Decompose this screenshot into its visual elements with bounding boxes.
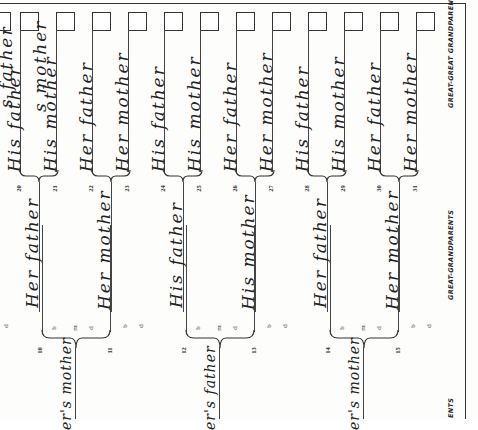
birth-marker: b bbox=[121, 324, 129, 328]
death-marker: d bbox=[137, 324, 145, 328]
chart-border-right bbox=[465, 3, 466, 419]
record-checkbox[interactable] bbox=[128, 12, 147, 31]
ancestor-name[interactable]: Her mother bbox=[382, 189, 402, 310]
ancestor-name[interactable]: er's father bbox=[202, 345, 218, 430]
ancestor-number: 31 bbox=[411, 185, 418, 192]
name-line bbox=[398, 225, 399, 332]
name-line bbox=[254, 225, 255, 332]
ancestor-name[interactable]: Her father bbox=[220, 61, 240, 172]
record-checkbox[interactable] bbox=[164, 12, 183, 31]
ancestor-number: 26 bbox=[231, 185, 238, 192]
record-checkbox[interactable] bbox=[344, 12, 363, 31]
ancestor-name[interactable]: Her mother bbox=[256, 51, 276, 172]
ancestor-number: 11 bbox=[106, 347, 113, 353]
ancestor-name[interactable]: er's mother bbox=[346, 337, 362, 430]
ancestor-name[interactable]: er's mother bbox=[58, 337, 74, 430]
ancestor-number: 24 bbox=[159, 185, 166, 192]
death-marker: d bbox=[281, 324, 289, 328]
death-marker: d bbox=[2, 324, 10, 328]
death-marker: d bbox=[425, 324, 433, 328]
connector-line bbox=[363, 347, 364, 419]
record-checkbox[interactable] bbox=[416, 12, 435, 31]
connector-line bbox=[219, 347, 220, 419]
pair-brace bbox=[328, 328, 400, 350]
record-checkbox[interactable] bbox=[200, 12, 219, 31]
ancestor-name[interactable]: Her mother bbox=[400, 51, 420, 172]
ancestor-number: 28 bbox=[303, 185, 310, 192]
birth-marker: b bbox=[265, 324, 273, 328]
ancestor-number: 14 bbox=[324, 347, 331, 354]
ancestor-name[interactable]: Her father bbox=[364, 61, 384, 172]
chart-border-top bbox=[0, 3, 466, 4]
ancestor-number: 13 bbox=[250, 347, 257, 354]
record-checkbox[interactable] bbox=[236, 12, 255, 31]
record-checkbox[interactable] bbox=[92, 12, 111, 31]
column-caption-grandparents: ENTS bbox=[447, 398, 455, 418]
ancestor-number: 29 bbox=[339, 185, 346, 192]
ancestor-number: 21 bbox=[51, 185, 58, 192]
name-line bbox=[42, 225, 43, 332]
ancestor-name[interactable]: Her mother bbox=[112, 51, 132, 172]
birth-marker: b bbox=[409, 324, 417, 328]
connector-line bbox=[75, 347, 76, 419]
ancestor-name[interactable]: Her father bbox=[76, 61, 96, 172]
record-checkbox[interactable] bbox=[272, 12, 291, 31]
ancestor-name[interactable]: His mother bbox=[184, 55, 204, 172]
ancestor-name[interactable]: His father bbox=[292, 65, 312, 172]
ancestor-name[interactable]: His father bbox=[166, 201, 186, 308]
name-line bbox=[186, 225, 187, 332]
ancestor-number: 25 bbox=[195, 185, 202, 192]
record-checkbox[interactable] bbox=[308, 12, 327, 31]
pair-brace bbox=[40, 328, 112, 350]
name-line bbox=[330, 225, 331, 332]
column-caption-great-great-grandparents: GREAT-GREAT GRANDPARENTS bbox=[447, 0, 455, 108]
ancestor-name[interactable]: Her father bbox=[310, 197, 330, 308]
ancestor-number: 12 bbox=[180, 347, 187, 354]
ancestor-name[interactable]: Her father bbox=[22, 197, 42, 308]
ancestor-number: 22 bbox=[87, 185, 94, 192]
ancestor-number: 10 bbox=[36, 347, 43, 354]
ancestor-number: 23 bbox=[123, 185, 130, 192]
pair-brace bbox=[184, 328, 256, 350]
ancestor-name[interactable]: His father bbox=[148, 65, 168, 172]
ancestor-name[interactable]: His mother bbox=[328, 55, 348, 172]
ancestor-name[interactable]: His mother bbox=[40, 55, 60, 172]
ancestor-name[interactable]: His mother bbox=[238, 193, 258, 310]
ancestor-number: 15 bbox=[394, 347, 401, 354]
ancestor-number: 27 bbox=[267, 185, 274, 192]
ancestor-number: 20 bbox=[15, 185, 22, 192]
ancestor-name[interactable]: Her mother bbox=[94, 189, 114, 310]
ancestor-number: 30 bbox=[375, 185, 382, 192]
record-checkbox[interactable] bbox=[56, 12, 75, 31]
record-checkbox[interactable] bbox=[380, 12, 399, 31]
ancestor-name[interactable]: His father bbox=[4, 65, 24, 172]
column-caption-great-grandparents: GREAT-GRANDPARENTS bbox=[447, 210, 455, 300]
name-line bbox=[110, 225, 111, 332]
